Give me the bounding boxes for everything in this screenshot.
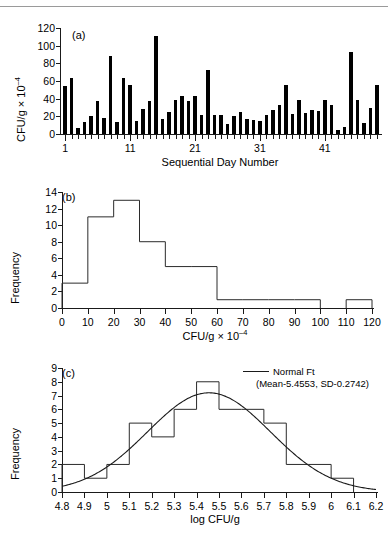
bar [258,121,262,134]
bar [297,100,301,134]
bar [70,78,74,134]
bar [375,85,379,134]
bar [349,52,353,134]
bar [96,101,100,134]
bar [219,115,223,134]
bar [284,85,288,134]
bar [291,114,295,134]
panel-b-x-axis-exponent: –4 [239,328,247,337]
panel-a-x-tick [156,135,157,139]
panel-a-x-tick [286,135,287,139]
top-divider-rule [0,6,388,7]
panel-a-x-tick-label: 21 [180,143,210,154]
bar [304,113,308,134]
panel-a-x-tick [247,135,248,139]
panel-a-x-tick [292,135,293,139]
panel-c-x-axis-title: log CFU/g [50,514,380,525]
panel-c: (c) Frequency log CFU/g Normal Ft (Mean-… [0,362,388,547]
panel-a-x-tick [143,135,144,139]
bar [336,130,340,134]
panel-a-x-tick [331,135,332,139]
panel-a-x-tick [338,135,339,139]
panel-a-x-tick [273,135,274,139]
bar [154,36,158,134]
panel-a-y-tick-label: 120 [24,23,55,34]
panel-a-x-tick [253,135,254,139]
bar [115,122,119,134]
bar [109,56,113,134]
bar [226,124,230,134]
panel-a-x-tick [176,135,177,139]
bar [323,100,327,134]
panel-b-x-axis-title: CFU/g × 10–4 [50,329,380,342]
bar [239,112,243,134]
bar [89,116,93,134]
panel-a-x-tick [78,135,79,139]
panel-a-x-tick-label: 11 [115,143,145,154]
panel-a-x-tick [215,135,216,139]
panel-a-y-tick-label: 100 [24,41,55,52]
panel-a-x-tick [260,135,261,141]
panel-a-x-tick-label: 41 [310,143,340,154]
bar [317,111,321,134]
panel-a-x-axis-title: Sequential Day Number [60,157,380,168]
panel-a-x-tick [189,135,190,139]
panel-a-x-tick [72,135,73,139]
panel-a-x-tick [85,135,86,139]
bar [161,119,165,134]
bar [265,115,269,134]
bar [174,100,178,134]
panel-a-x-tick [364,135,365,139]
bar [356,100,360,134]
panel-a-x-tick [169,135,170,139]
panel-b-x-axis-title-text: CFU/g × 10 [183,330,240,342]
panel-b-histogram-outline [62,200,372,308]
panel-a-x-tick [299,135,300,139]
panel-a-x-tick [163,135,164,139]
bar [252,120,256,134]
bar [193,96,197,134]
bar [135,121,139,134]
panel-a-x-tick [130,135,131,141]
panel-a-plot-area: 020406080100120111213141 [0,14,388,154]
panel-a-x-tick [195,135,196,141]
panel-a-y-tick-label: 40 [24,94,55,105]
bar [206,70,210,134]
bar [200,115,204,134]
bar [128,85,132,134]
panel-a-x-tick [182,135,183,139]
panel-a-x-tick [150,135,151,139]
bar [369,108,373,134]
panel-a-y-tick-label: 20 [24,111,55,122]
panel-c-histogram-outline [62,382,354,492]
panel-b-plot-area: 024681012140102030405060708090100110120 [0,186,388,326]
panel-b: (b) Frequency CFU/g × 10–4 0246810121401… [0,186,388,351]
panel-a-x-tick [240,135,241,139]
bar [362,123,366,134]
panel-c-histogram [0,362,388,504]
panel-a-x-tick [266,135,267,139]
panel-a-x-tick [111,135,112,139]
bar [63,86,67,134]
panel-a: (a) CFU/g × 10–4 Sequential Day Number 0… [0,14,388,174]
bar [245,119,249,134]
bar [141,109,145,134]
bar [271,110,275,134]
panel-b-histogram [0,186,388,320]
bar [83,122,87,134]
panel-a-x-tick [305,135,306,139]
bar [122,78,126,134]
bar [213,115,217,134]
panel-a-x-tick [117,135,118,139]
panel-c-plot-area: 01234567894.84.955.15.25.35.45.55.65.75.… [0,362,388,512]
panel-a-x-tick [318,135,319,139]
panel-a-x-tick [221,135,222,139]
panel-a-x-tick [208,135,209,139]
panel-a-x-tick [227,135,228,139]
bar [167,112,171,134]
panel-a-x-tick [279,135,280,139]
panel-a-x-tick [312,135,313,139]
panel-a-x-tick-label: 31 [245,143,275,154]
panel-a-x-tick [377,135,378,139]
panel-a-x-tick [370,135,371,139]
